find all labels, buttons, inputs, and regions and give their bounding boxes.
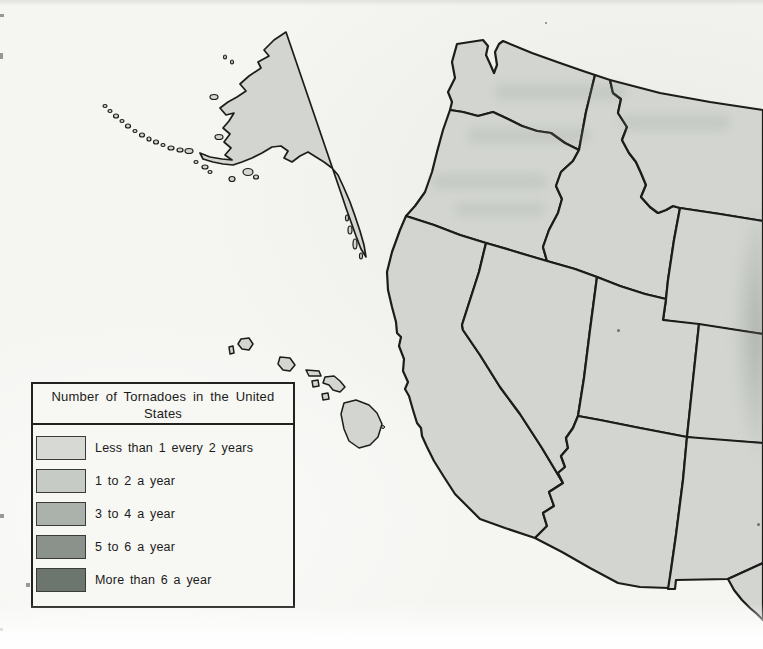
bleedthrough-smudge [468,128,590,143]
island-oahu [278,357,295,371]
scan-edge-mark [0,628,3,631]
legend-item: 1 to 2 a year [36,469,293,493]
legend-swatch [36,535,86,559]
dust-speck [757,523,760,526]
legend-title: Number of Tornadoes in the United States [33,384,293,425]
island-niihau [229,346,234,354]
state-alaska [200,32,366,257]
legend-title-line1: Number of Tornadoes in the United [33,388,293,405]
island-molokai [306,370,321,376]
legend-item: 3 to 4 a year [36,502,293,526]
dust-speck [617,329,620,332]
coastal-islet [382,426,385,429]
dust-speck [545,22,547,24]
island-hawaii [341,400,382,448]
legend-swatch [36,469,86,493]
legend-item-label: More than 6 a year [95,573,212,587]
legend-swatch [36,502,86,526]
bleedthrough-smudge [495,84,625,100]
legend-swatch [36,568,86,592]
legend: Number of Tornadoes in the United States… [31,382,295,608]
legend-item-label: 3 to 4 a year [95,507,175,521]
legend-items: Less than 1 every 2 years1 to 2 a year3 … [33,425,293,592]
legend-item-label: 5 to 6 a year [95,540,175,554]
scan-top-edge [0,0,763,6]
page-curl-shadow [733,205,763,460]
island-kahoolawe [322,393,329,400]
scan-edge-mark [26,583,30,587]
legend-item: Less than 1 every 2 years [36,436,293,460]
bleedthrough-smudge [432,174,547,189]
scan-edge-mark [0,53,3,59]
legend-item-label: Less than 1 every 2 years [95,441,253,455]
legend-item-label: 1 to 2 a year [95,474,175,488]
island-maui [323,376,345,392]
scanned-map-page: Number of Tornadoes in the United States… [0,0,763,649]
bleedthrough-smudge [455,203,545,216]
scan-edge-mark [0,514,4,518]
legend-item: 5 to 6 a year [36,535,293,559]
bleedthrough-smudge [620,115,730,130]
legend-item: More than 6 a year [36,568,293,592]
legend-swatch [36,436,86,460]
island-kauai [238,338,253,350]
alaska-inset [103,32,366,259]
legend-title-line2: States [33,405,293,422]
scan-edge-mark [0,14,4,17]
island-lanai [312,380,319,387]
